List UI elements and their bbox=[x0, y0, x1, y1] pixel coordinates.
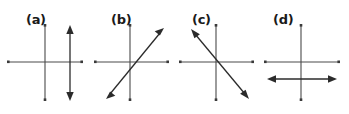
panel-c-vector-arrowhead-upper-left bbox=[191, 29, 200, 38]
panel-d-vector-arrowhead-left bbox=[267, 75, 276, 82]
panel-c-h-axis-cap-right bbox=[251, 61, 254, 64]
panel-b-vector-arrowhead-lower-left bbox=[106, 92, 115, 100]
figure-canvas: (a) (b) bbox=[0, 0, 349, 114]
panel-b-v-axis-cap-bottom bbox=[129, 98, 132, 101]
panel-c-vector-shaft bbox=[195, 34, 245, 94]
panel-d-vector-arrowhead-right bbox=[328, 75, 337, 82]
panel-b-vector-arrow bbox=[106, 28, 164, 99]
panel-b-h-axis-cap-left bbox=[94, 61, 97, 64]
panel-a: (a) bbox=[7, 12, 83, 101]
panel-c-label: (c) bbox=[192, 12, 211, 27]
panel-a-h-axis-cap-right bbox=[80, 61, 83, 64]
panel-b: (b) bbox=[94, 12, 169, 101]
panel-d-v-axis-cap-bottom bbox=[300, 98, 303, 101]
panel-c-v-axis-cap-top bbox=[215, 24, 218, 27]
panel-c-vector-arrow bbox=[191, 29, 249, 99]
panel-d-h-axis-cap-left bbox=[264, 61, 267, 64]
panel-b-vector-arrowhead-upper-right bbox=[155, 28, 164, 36]
vector-orientation-figure: (a) (b) bbox=[0, 0, 349, 114]
panel-a-v-axis-cap-top bbox=[44, 24, 47, 27]
panel-b-label: (b) bbox=[111, 12, 131, 27]
panel-a-label: (a) bbox=[26, 12, 46, 27]
panel-a-vector-arrowhead-up bbox=[66, 25, 73, 34]
panel-a-vector-arrowhead-down bbox=[66, 92, 73, 101]
panel-c-h-axis-cap-left bbox=[179, 61, 182, 64]
panel-a-vector-arrow bbox=[66, 25, 73, 101]
panel-d-v-axis-cap-top bbox=[300, 24, 303, 27]
panel-a-v-axis-cap-bottom bbox=[44, 98, 47, 101]
panel-d-vector-arrow bbox=[267, 75, 337, 82]
panel-c: (c) bbox=[179, 12, 254, 101]
panel-b-vector-shaft bbox=[110, 33, 160, 94]
panel-a-h-axis-cap-left bbox=[7, 61, 10, 64]
panel-d-label: (d) bbox=[273, 12, 293, 27]
panel-d: (d) bbox=[264, 12, 340, 101]
panel-b-v-axis-cap-top bbox=[129, 24, 132, 27]
panel-b-h-axis-cap-right bbox=[166, 61, 169, 64]
panel-d-h-axis-cap-right bbox=[337, 61, 340, 64]
panel-c-v-axis-cap-bottom bbox=[215, 98, 218, 101]
panel-c-vector-arrowhead-lower-right bbox=[240, 90, 249, 99]
